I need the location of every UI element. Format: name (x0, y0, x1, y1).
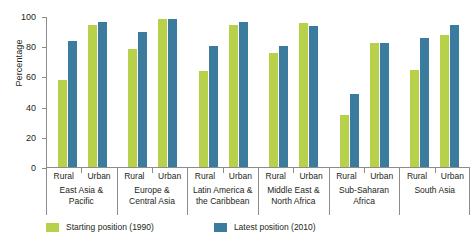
bar-pair-urban (370, 17, 389, 167)
plot-area: 100806040200 (46, 17, 470, 168)
subcategory-label-rural: Rural (399, 171, 434, 181)
category-group: RuralUrbanEast Asia &Pacific (46, 168, 117, 215)
bar-groups (47, 17, 470, 167)
bar-pair-urban (229, 17, 248, 167)
region-group (400, 17, 471, 167)
category-separator (117, 168, 118, 215)
subcategory-label-urban: Urban (81, 171, 116, 181)
bar-starting-position[interactable] (340, 115, 349, 168)
subcategory-label-rural: Rural (329, 171, 364, 181)
legend-swatch (46, 223, 59, 232)
subcategory-tick (152, 168, 153, 173)
subcategory-label-urban: Urban (223, 171, 258, 181)
bar-pair-rural (340, 17, 359, 167)
region-label-line: Middle East & (258, 185, 329, 196)
region-group (47, 17, 118, 167)
bar-starting-position[interactable] (58, 80, 67, 167)
region-label-line: the Caribbean (187, 196, 258, 207)
subcategory-label-urban: Urban (293, 171, 328, 181)
bar-pair-urban (158, 17, 177, 167)
region-label: Latin America &the Caribbean (187, 183, 258, 206)
bar-pair-rural (199, 17, 218, 167)
region-label-line: Europe & (117, 185, 188, 196)
subcategory-tick (293, 168, 294, 173)
bar-starting-position[interactable] (370, 43, 379, 168)
subcategory-label-urban: Urban (152, 171, 187, 181)
region-label-line: Africa (329, 196, 400, 207)
category-group: RuralUrbanSouth Asia (399, 168, 470, 215)
category-group: RuralUrbanMiddle East &North Africa (258, 168, 329, 215)
category-group: RuralUrbanLatin America &the Caribbean (187, 168, 258, 215)
bar-latest-position[interactable] (138, 32, 147, 167)
category-group: RuralUrbanEurope &Central Asia (117, 168, 188, 215)
region-group (188, 17, 259, 167)
bar-starting-position[interactable] (269, 53, 278, 167)
region-label: South Asia (399, 183, 470, 196)
bar-latest-position[interactable] (98, 22, 107, 168)
legend-label: Starting position (1990) (66, 222, 154, 232)
bar-latest-position[interactable] (380, 43, 389, 168)
subcategory-label-rural: Rural (258, 171, 293, 181)
bar-starting-position[interactable] (299, 23, 308, 167)
region-label-line: Pacific (46, 196, 117, 207)
region-label: East Asia &Pacific (46, 183, 117, 206)
category-separator (187, 168, 188, 215)
y-axis-tick: 60 (42, 77, 46, 78)
y-axis-tick-label: 20 (26, 133, 36, 143)
subcategory-tick (435, 168, 436, 173)
region-label-line: Latin America & (187, 185, 258, 196)
region-label-line: South Asia (399, 185, 470, 196)
chart-legend: Starting position (1990)Latest position … (46, 222, 316, 232)
bar-starting-position[interactable] (440, 35, 449, 167)
subcategory-tick (81, 168, 82, 173)
legend-swatch (214, 223, 227, 232)
bar-starting-position[interactable] (229, 25, 238, 168)
y-axis-tick: 20 (42, 138, 46, 139)
y-axis-tick-label: 80 (26, 42, 36, 52)
bar-pair-urban (440, 17, 459, 167)
region-group (259, 17, 330, 167)
region-label-line: East Asia & (46, 185, 117, 196)
bar-latest-position[interactable] (450, 25, 459, 168)
category-separator (469, 168, 470, 215)
subcategory-tick (223, 168, 224, 173)
y-axis-tick: 80 (42, 47, 46, 48)
category-axis: RuralUrbanEast Asia &PacificRuralUrbanEu… (46, 168, 470, 215)
subcategory-label-rural: Rural (46, 171, 81, 181)
bar-starting-position[interactable] (158, 19, 167, 168)
bar-latest-position[interactable] (309, 26, 318, 167)
subcategory-label-rural: Rural (117, 171, 152, 181)
region-group (118, 17, 189, 167)
y-axis-tick-label: 100 (21, 12, 36, 22)
bar-latest-position[interactable] (420, 38, 429, 167)
y-axis-tick: 40 (42, 108, 46, 109)
region-label: Middle East &North Africa (258, 183, 329, 206)
bar-pair-urban (299, 17, 318, 167)
bar-latest-position[interactable] (68, 41, 77, 167)
bar-pair-rural (410, 17, 429, 167)
bar-pair-urban (88, 17, 107, 167)
legend-item[interactable]: Latest position (2010) (214, 222, 316, 232)
subcategory-tick (364, 168, 365, 173)
category-separator (258, 168, 259, 215)
legend-item[interactable]: Starting position (1990) (46, 222, 154, 232)
region-group (329, 17, 400, 167)
bar-latest-position[interactable] (279, 46, 288, 168)
subcategory-label-urban: Urban (364, 171, 399, 181)
bar-latest-position[interactable] (350, 94, 359, 168)
category-separator (329, 168, 330, 215)
bar-chart: Percentage 100806040200 RuralUrbanEast A… (0, 0, 476, 243)
region-label: Europe &Central Asia (117, 183, 188, 206)
bar-latest-position[interactable] (239, 22, 248, 168)
bar-starting-position[interactable] (88, 25, 97, 168)
category-separator (399, 168, 400, 215)
region-label-line: Sub-Saharan (329, 185, 400, 196)
category-separator (46, 168, 47, 215)
bar-starting-position[interactable] (128, 49, 137, 168)
bar-starting-position[interactable] (410, 70, 419, 168)
y-axis-title: Percentage (14, 8, 24, 118)
y-axis-tick-label: 0 (31, 163, 36, 173)
bar-latest-position[interactable] (168, 19, 177, 168)
bar-starting-position[interactable] (199, 71, 208, 167)
bar-latest-position[interactable] (209, 46, 218, 168)
